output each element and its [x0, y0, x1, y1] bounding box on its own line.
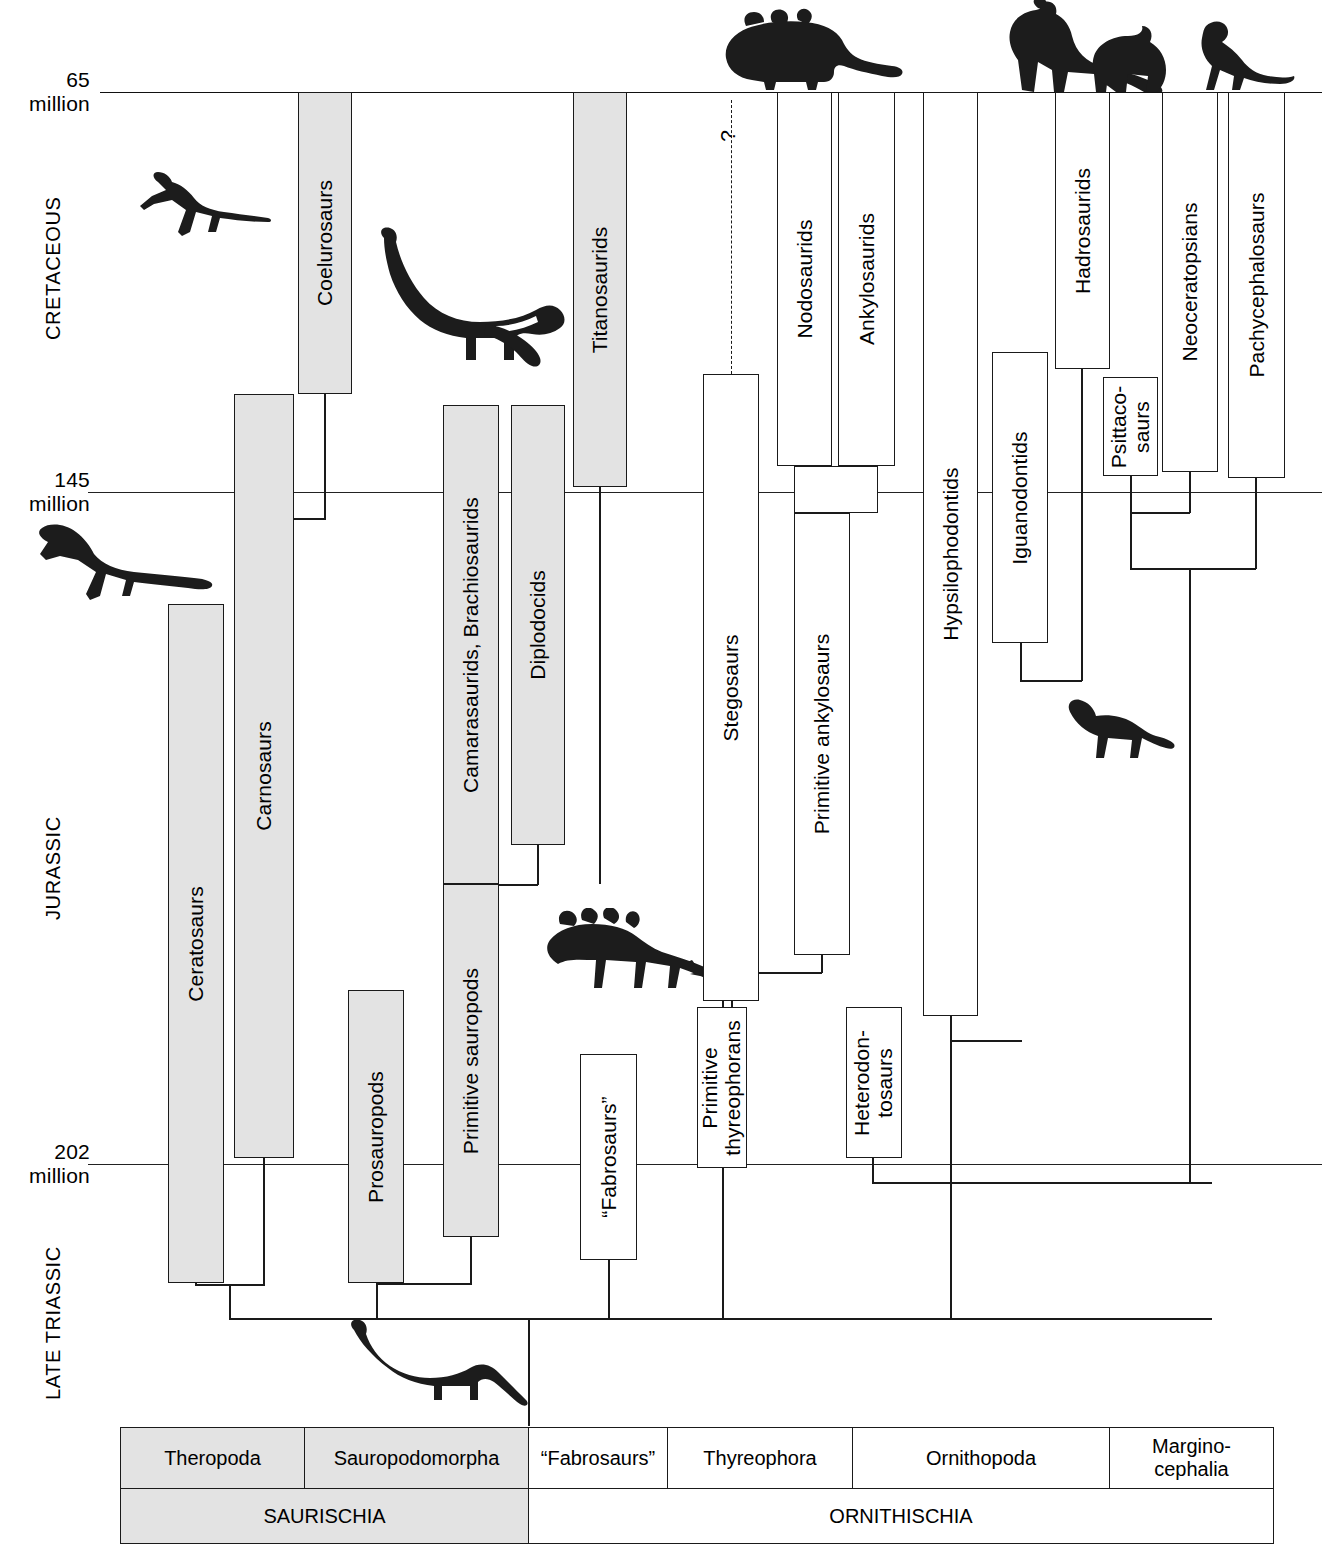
range-bar-label: Ankylosaurids [855, 213, 878, 345]
range-bar-label: Prosauropods [365, 1071, 388, 1203]
table-cell-theropoda[interactable]: Theropoda [120, 1427, 305, 1489]
connector-marginocephalia-h [1130, 568, 1256, 570]
coelurosaur-silhouette [136, 170, 272, 242]
axis-label-202ma: 202 million [10, 1140, 90, 1187]
connector-saurischia-base [229, 1318, 529, 1320]
connector-diplodocid-stem [537, 845, 539, 885]
range-bar-psittacosaurs[interactable]: Psittaco- saurs [1103, 377, 1158, 476]
prosauropod-silhouette [330, 1316, 530, 1408]
period-label-cretaceous: CRETACEOUS [42, 197, 65, 340]
connector-ornithischia-base [528, 1318, 1212, 1320]
axis-unit-145: million [10, 492, 90, 516]
range-bar-stegosaurs[interactable]: Stegosaurs [703, 374, 759, 1001]
connector-ornithopoda-h [950, 1040, 1022, 1042]
table-cell-marginocephalia[interactable]: Margino- cephalia [1109, 1427, 1274, 1489]
range-bar-hypsilophodontids[interactable]: Hypsilophodontids [923, 92, 978, 1016]
uncertainty-question-mark: ? [716, 130, 740, 142]
connector-coelurosaur-stem [324, 394, 326, 518]
connector-neoceratopsian-stem [1189, 472, 1191, 513]
connector-cerapoda-h [872, 1182, 1212, 1184]
axis-label-145ma: 145 million [10, 468, 90, 515]
pachycephalosaur-silhouette [1192, 20, 1297, 92]
connector-hypsilophodontid-stem [950, 1016, 952, 1318]
connector-ceratosaur-stem [195, 1283, 197, 1284]
range-bar-label: Hypsilophodontids [939, 467, 962, 640]
sauropod-silhouette [366, 226, 574, 368]
table-cell-label: ORNITHISCHIA [829, 1505, 972, 1528]
range-bar-camarasaurids-brachiosaurids[interactable]: Camarasaurids, Brachiosaurids [443, 405, 499, 884]
range-bar-label: Stegosaurs [720, 634, 743, 741]
ankylosaur-silhouette [706, 8, 906, 90]
connector-primitive-sauropod-stem [470, 1237, 472, 1283]
range-bar-label: Ceratosaurs [185, 886, 208, 1001]
connector-pachycephalosaur-stem [1255, 478, 1257, 569]
range-bar-pachycephalosaurs[interactable]: Pachycephalosaurs [1228, 92, 1285, 478]
range-bar-label: Neoceratopsians [1179, 202, 1202, 361]
range-bar-label: Titanosaurids [589, 226, 612, 353]
axis-label-65ma: 65 million [10, 68, 90, 115]
range-bar-iguanodontids[interactable]: Iguanodontids [992, 352, 1048, 643]
table-cell-label: SAURISCHIA [263, 1505, 385, 1528]
range-bar-nodosaurids[interactable]: Nodosaurids [777, 92, 832, 466]
psittacosaur-silhouette [1056, 696, 1176, 764]
connector-theropoda-stem [229, 1284, 231, 1318]
range-bar-label: Diplodocids [527, 570, 550, 680]
connector-ceratopsia-stem [1130, 512, 1132, 568]
axis-unit-202: million [10, 1164, 90, 1188]
connector-heterodontosaur-stem [872, 1158, 874, 1182]
boundary-line-65ma [100, 92, 1322, 93]
range-bar-label: Hadrosaurids [1071, 167, 1094, 293]
range-bar-hadrosaurids[interactable]: Hadrosaurids [1055, 92, 1110, 369]
connector-ceratopsia-h [1130, 512, 1190, 514]
range-bar-primitive-ankylosaurs[interactable]: Primitive ankylosaurs [794, 513, 850, 955]
hadrosaur-silhouette [968, 0, 1183, 92]
table-cell-label: Thyreophora [703, 1447, 816, 1470]
node-box-ankylosauria [794, 466, 878, 513]
range-bar-label: Primitive thyreophorans [699, 1013, 744, 1163]
table-cell-label: Theropoda [164, 1447, 261, 1470]
table-cell-ornithischia[interactable]: ORNITHISCHIA [528, 1488, 1274, 1544]
table-cell-sauropodomorpha[interactable]: Sauropodomorpha [304, 1427, 529, 1489]
period-label-late-triassic: LATE TRIASSIC [42, 1246, 65, 1400]
table-cell-ornithopoda[interactable]: Ornithopoda [852, 1427, 1110, 1489]
axis-value-145: 145 [10, 468, 90, 492]
range-bar-label: Coelurosaurs [314, 180, 337, 306]
range-bar-titanosaurids[interactable]: Titanosaurids [573, 92, 627, 487]
range-bar-heterodontosaurs[interactable]: Heterodon- tosaurs [846, 1007, 902, 1158]
range-bar-label: Camarasaurids, Brachiosaurids [460, 497, 483, 793]
connector-sauropodomorpha-h [376, 1283, 472, 1285]
table-cell-fabrosaurs[interactable]: “Fabrosaurs” [528, 1427, 668, 1489]
range-bar-prosauropods[interactable]: Prosauropods [348, 990, 404, 1283]
connector-primitive-ankylosaur-stem [821, 955, 823, 973]
table-cell-thyreophora[interactable]: Thyreophora [667, 1427, 853, 1489]
range-bar-label: Iguanodontids [1009, 431, 1032, 564]
range-bar-neoceratopsians[interactable]: Neoceratopsians [1162, 92, 1218, 472]
range-bar-coelurosaurs[interactable]: Coelurosaurs [298, 92, 352, 394]
range-bar-label: Pachycephalosaurs [1245, 193, 1268, 378]
connector-thyreophora-stem [722, 1168, 724, 1318]
range-bar-ceratosaurs[interactable]: Ceratosaurs [168, 604, 224, 1283]
connector-psittacosaur-stem [1130, 476, 1132, 512]
table-cell-label: Ornithopoda [926, 1447, 1036, 1470]
range-bar-ankylosaurids[interactable]: Ankylosaurids [838, 92, 895, 466]
range-bar-primitive-sauropods[interactable]: Primitive sauropods [443, 884, 499, 1237]
range-bar-carnosaurs[interactable]: Carnosaurs [234, 394, 294, 1158]
range-bar-fabrosaurs[interactable]: “Fabrosaurs” [580, 1054, 637, 1260]
period-label-jurassic: JURASSIC [42, 816, 65, 920]
range-bar-label: Heterodon- tosaurs [851, 1017, 896, 1149]
range-bar-diplodocids[interactable]: Diplodocids [511, 405, 565, 845]
connector-hadrosaurid-stem [1081, 369, 1083, 681]
axis-unit-65: million [10, 92, 90, 116]
connector-fabrosaur-stem [608, 1260, 610, 1318]
table-cell-saurischia[interactable]: SAURISCHIA [120, 1488, 529, 1544]
axis-value-65: 65 [10, 68, 90, 92]
connector-marginocephalia-stem [1189, 568, 1191, 1182]
table-cell-label: Sauropodomorpha [334, 1447, 500, 1470]
carnosaur-silhouette [26, 520, 216, 610]
dinosaur-phylogeny-chart: 65 million 145 million 202 million CRETA… [0, 0, 1331, 1556]
range-bar-label: Primitive sauropods [460, 967, 483, 1153]
range-bar-primitive-thyreophorans[interactable]: Primitive thyreophorans [697, 1007, 747, 1168]
connector-sauropodomorpha-stem [376, 1283, 378, 1318]
stegosaur-silhouette [530, 908, 730, 1004]
connector-titanosaurid-stem [599, 487, 601, 884]
